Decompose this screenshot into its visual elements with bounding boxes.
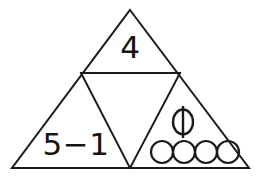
cell-bottom-left-label: 5−1 <box>43 126 110 162</box>
triangle-diagram: 4 5−1 <box>0 0 261 179</box>
cell-top-label: 4 <box>120 29 140 65</box>
diagram-canvas: 4 5−1 <box>0 0 261 179</box>
